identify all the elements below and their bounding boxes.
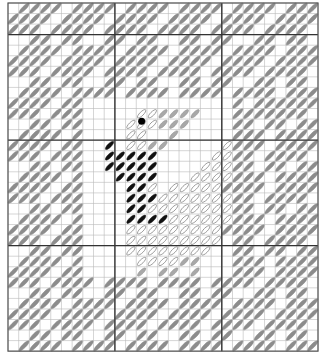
stitch	[190, 203, 201, 214]
stitch	[146, 55, 159, 68]
stitch	[274, 255, 287, 268]
stitch	[306, 266, 319, 279]
stitch	[274, 192, 287, 205]
stitch	[231, 318, 244, 331]
stitch	[296, 118, 309, 131]
stitch	[7, 23, 20, 36]
stitch	[125, 308, 138, 321]
stitch	[18, 55, 31, 68]
stitch	[147, 225, 158, 236]
stitch	[253, 139, 266, 152]
stitch	[285, 139, 298, 152]
stitch	[306, 44, 319, 57]
stitch	[285, 171, 298, 184]
stitch	[82, 276, 95, 289]
stitch	[28, 223, 41, 236]
stitch	[242, 118, 255, 131]
stitch	[71, 329, 84, 342]
stitch	[296, 86, 309, 99]
stitch	[296, 55, 309, 68]
stitch	[7, 55, 20, 68]
stitch	[306, 255, 319, 268]
stitch	[136, 267, 147, 278]
stitch	[39, 171, 52, 184]
stitch	[60, 223, 73, 236]
stitch	[82, 12, 95, 25]
stitch	[147, 108, 158, 119]
stitch	[103, 287, 116, 300]
stitch	[231, 276, 244, 289]
stitch	[7, 234, 20, 247]
stitch	[28, 266, 41, 279]
stitch	[242, 339, 255, 352]
stitch	[135, 55, 148, 68]
stitch	[18, 12, 31, 25]
stitch	[210, 318, 223, 331]
stitch	[18, 255, 31, 268]
stitch	[28, 2, 41, 15]
stitch	[126, 193, 137, 204]
stitch	[263, 44, 276, 57]
stitch	[7, 107, 20, 120]
stitch	[147, 161, 158, 172]
stitch	[274, 202, 287, 215]
stitch	[221, 287, 234, 300]
stitch	[147, 235, 158, 246]
stitch	[306, 97, 319, 110]
stitch	[39, 118, 52, 131]
stitch	[221, 33, 234, 46]
stitch	[306, 213, 319, 226]
stitch	[60, 55, 73, 68]
stitch	[7, 223, 20, 236]
stitch	[200, 193, 211, 204]
stitch	[274, 213, 287, 226]
stitch	[60, 192, 73, 205]
stitch	[157, 276, 170, 289]
stitch	[60, 329, 73, 342]
stitch	[50, 297, 63, 310]
stitch	[221, 308, 234, 321]
stitch	[285, 192, 298, 205]
stitch	[71, 55, 84, 68]
stitch	[231, 266, 244, 279]
stitch	[18, 266, 31, 279]
stitch	[147, 246, 158, 257]
stitch	[103, 329, 116, 342]
stitch	[136, 203, 147, 214]
stitch	[92, 2, 105, 15]
stitch	[71, 192, 84, 205]
stitch	[231, 65, 244, 78]
stitch	[18, 171, 31, 184]
stitch	[242, 12, 255, 25]
stitch	[263, 2, 276, 15]
stitch	[71, 86, 84, 99]
stitch	[242, 266, 255, 279]
stitch	[274, 276, 287, 289]
stitch	[28, 12, 41, 25]
stitch	[231, 44, 244, 57]
stitch	[147, 119, 158, 130]
stitch	[50, 23, 63, 36]
stitch	[146, 339, 159, 352]
stitch	[114, 318, 127, 331]
stitch	[114, 33, 127, 46]
stitch	[200, 246, 211, 257]
stitch	[71, 339, 84, 352]
stitch	[253, 329, 266, 342]
stitch	[71, 181, 84, 194]
stitch	[50, 107, 63, 120]
stitch	[71, 107, 84, 120]
stitch	[221, 23, 234, 36]
stitch	[211, 161, 222, 172]
stitch	[285, 150, 298, 163]
stitch	[263, 97, 276, 110]
stitch	[285, 181, 298, 194]
stitch	[179, 119, 190, 130]
stitch	[50, 213, 63, 226]
stitch	[231, 234, 244, 247]
stitch	[18, 223, 31, 236]
stitch	[135, 329, 148, 342]
stitch	[168, 182, 179, 193]
stitch	[125, 55, 138, 68]
stitch	[136, 172, 147, 183]
